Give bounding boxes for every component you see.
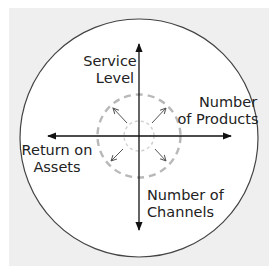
label-line: Channels (147, 204, 214, 220)
label-line: Assets (33, 159, 80, 175)
label-line: Number (199, 94, 257, 110)
label-line: of Products (177, 111, 258, 127)
label-line: Number of (147, 187, 225, 203)
label-line: Service (83, 53, 137, 69)
label-line: Return on (22, 142, 93, 158)
strategy-dimensions-diagram: Service Level Number of Products Number … (0, 0, 276, 280)
label-number-of-channels: Number of Channels (147, 187, 225, 220)
label-line: Level (96, 70, 134, 86)
